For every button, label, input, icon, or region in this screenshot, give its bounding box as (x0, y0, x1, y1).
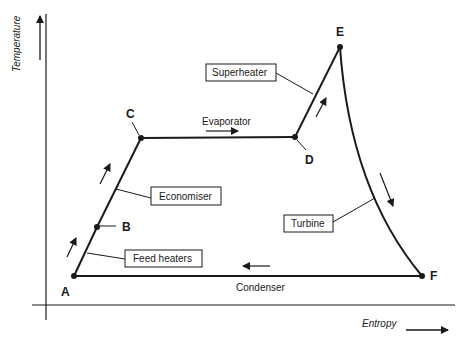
turbine-label: Turbine (291, 218, 325, 229)
segment-b-c (97, 138, 141, 227)
economiser-leader (116, 189, 151, 198)
label-b: B (122, 220, 131, 234)
superheater-arrow-icon (316, 98, 326, 117)
turbine-arrow-icon (380, 173, 393, 206)
point-a (71, 273, 77, 279)
economiser-label: Economiser (159, 191, 212, 202)
evaporator-callout: Evaporator (202, 116, 252, 131)
economiser-arrow-icon (100, 164, 110, 184)
leader-c (132, 122, 139, 135)
point-c (138, 135, 144, 141)
feed-heaters-callout: Feed heaters (67, 238, 202, 267)
evaporator-label: Evaporator (202, 116, 252, 127)
segment-a-b (74, 227, 97, 276)
x-axis-label: Entropy (362, 318, 397, 329)
feed-heaters-label: Feed heaters (133, 253, 192, 264)
segment-c-d (141, 137, 295, 138)
ts-diagram: Temperature Entropy A B C D E F Superhea… (0, 0, 467, 347)
label-a: A (61, 285, 70, 299)
condenser-label: Condenser (236, 282, 286, 293)
feed-heaters-arrow-icon (67, 238, 76, 257)
point-d (292, 134, 298, 140)
point-e (337, 44, 343, 50)
leader-d (297, 140, 306, 150)
point-b (94, 224, 100, 230)
segment-d-e (295, 47, 340, 137)
label-f: F (430, 269, 437, 283)
feed-heaters-leader (87, 253, 125, 259)
label-c: C (126, 107, 135, 121)
y-axis-label: Temperature (11, 15, 22, 72)
axes: Temperature Entropy (11, 14, 455, 330)
point-f (419, 273, 425, 279)
superheater-leader (276, 73, 313, 94)
label-e: E (336, 25, 344, 39)
segment-e-f (340, 47, 422, 276)
turbine-leader (333, 198, 375, 222)
superheater-label: Superheater (212, 67, 268, 78)
label-d: D (305, 153, 314, 167)
condenser-callout: Condenser (236, 266, 286, 293)
